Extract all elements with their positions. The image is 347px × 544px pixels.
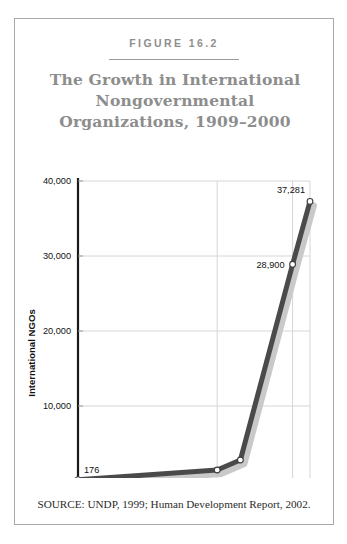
figure-title-line-1: The Growth in International xyxy=(25,69,325,90)
data-point-marker[interactable] xyxy=(75,477,81,478)
y-axis-tick-labels: 010,00020,00030,00040,000 xyxy=(43,176,71,478)
y-axis-tick-label: 20,000 xyxy=(43,326,71,336)
y-axis-tick-label: 0 xyxy=(66,476,71,478)
figure-divider-rule xyxy=(109,59,239,60)
y-axis-title: International NGOs xyxy=(26,309,37,396)
figure-number-label: FIGURE 16.2 xyxy=(15,37,333,49)
series-shadow-line xyxy=(82,205,314,478)
data-point-marker[interactable] xyxy=(214,467,220,473)
chart-plot-area: 010,00020,00030,00040,000 International … xyxy=(15,138,333,478)
data-point-labels: 17628,90037,281 xyxy=(84,185,305,474)
ngo-growth-line-chart: 010,00020,00030,00040,000 International … xyxy=(15,138,333,478)
data-point-label: 176 xyxy=(84,465,99,475)
data-point-marker[interactable] xyxy=(307,199,313,205)
data-point-label: 28,900 xyxy=(256,260,284,270)
y-axis-tick-label: 40,000 xyxy=(43,176,71,186)
figure-frame: FIGURE 16.2 The Growth in International … xyxy=(14,18,334,525)
data-point-marker[interactable] xyxy=(290,261,296,267)
figure-title-line-2: Nongovernmental xyxy=(25,90,325,111)
figure-title-line-3: Organizations, 1909–2000 xyxy=(25,111,325,132)
source-note: SOURCE: UNDP, 1999; Human Development Re… xyxy=(15,498,333,510)
figure-title: The Growth in International Nongovernmen… xyxy=(25,69,325,132)
data-point-label: 37,281 xyxy=(277,185,305,195)
data-point-marker[interactable] xyxy=(238,457,244,463)
y-axis-tick-label: 30,000 xyxy=(43,251,71,261)
y-axis-tick-label: 10,000 xyxy=(43,401,71,411)
horizontal-gridlines xyxy=(78,181,310,406)
